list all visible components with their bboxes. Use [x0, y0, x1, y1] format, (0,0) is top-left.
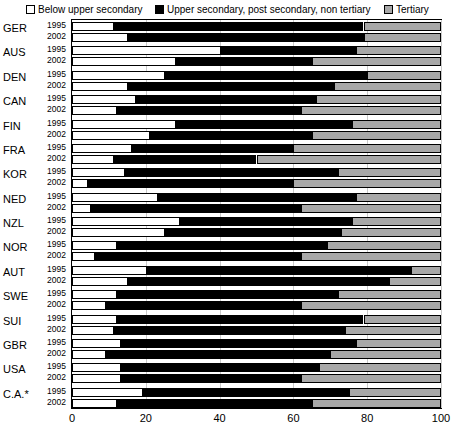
table-row — [72, 217, 441, 226]
bar-segment-below-upper-secondary — [72, 106, 116, 115]
table-row — [72, 168, 441, 177]
bar-segment-upper-secondary — [105, 350, 330, 359]
x-tick-label-0: 0 — [57, 412, 87, 424]
bar-segment-tertiary — [352, 120, 441, 129]
bar-segment-tertiary — [356, 193, 441, 202]
bar-segment-tertiary — [330, 350, 441, 359]
table-row — [72, 252, 441, 261]
country-label-aus: AUS — [3, 46, 26, 58]
bar-segment-below-upper-secondary — [72, 266, 146, 275]
legend-item-tertiary: Tertiary — [384, 2, 429, 16]
chart-legend: Below upper secondary Upper secondary, p… — [0, 2, 455, 17]
bar-segment-tertiary — [349, 388, 441, 397]
bar-segment-tertiary — [334, 82, 441, 91]
bar-segment-upper-secondary — [149, 131, 311, 140]
x-axis: 020406080100 — [0, 412, 455, 432]
legend-item-below-upper-secondary: Below upper secondary — [26, 2, 143, 16]
bar-segment-upper-secondary — [116, 315, 363, 324]
year-label-ca-2002: 2002 — [44, 398, 66, 407]
bar-segment-tertiary — [356, 339, 441, 348]
year-label-kor-1995: 1995 — [44, 167, 66, 176]
bar-segment-upper-secondary — [179, 217, 352, 226]
bar-segment-tertiary — [352, 217, 441, 226]
bar-segment-below-upper-secondary — [72, 315, 116, 324]
country-label-kor: KOR — [3, 168, 27, 180]
bar-segment-below-upper-secondary — [72, 374, 120, 383]
year-label-ned-2002: 2002 — [44, 203, 66, 212]
bar-segment-upper-secondary — [175, 57, 312, 66]
bar-segment-below-upper-secondary — [72, 388, 142, 397]
country-label-swe: SWE — [3, 290, 28, 302]
bar-segment-tertiary — [364, 315, 441, 324]
bar-segment-upper-secondary — [116, 241, 326, 250]
bar-segment-upper-secondary — [116, 290, 337, 299]
bar-segment-below-upper-secondary — [72, 193, 157, 202]
bar-segment-tertiary — [293, 144, 441, 153]
table-row — [72, 179, 441, 188]
table-row — [72, 374, 441, 383]
bar-segment-upper-secondary — [175, 120, 352, 129]
bar-segment-below-upper-secondary — [72, 95, 135, 104]
year-label-kor-2002: 2002 — [44, 178, 66, 187]
bar-segment-upper-secondary — [120, 339, 356, 348]
year-label-fra-2002: 2002 — [44, 154, 66, 163]
plot-area — [71, 19, 442, 409]
year-label-sui-2002: 2002 — [44, 325, 66, 334]
bar-segment-tertiary — [301, 374, 441, 383]
bar-segment-tertiary — [301, 106, 441, 115]
country-label-ca: C.A.* — [3, 388, 29, 400]
bar-segment-below-upper-secondary — [72, 120, 175, 129]
table-row — [72, 131, 441, 140]
year-label-aus-2002: 2002 — [44, 56, 66, 65]
bar-segment-below-upper-secondary — [72, 57, 175, 66]
bar-segment-tertiary — [257, 155, 442, 164]
bar-segment-upper-secondary — [135, 95, 316, 104]
country-label-fra: FRA — [3, 144, 25, 156]
bar-segment-tertiary — [411, 266, 441, 275]
x-tick-label-80: 80 — [352, 412, 382, 424]
bar-segment-tertiary — [338, 168, 441, 177]
bar-segment-below-upper-secondary — [72, 252, 94, 261]
year-label-nor-2002: 2002 — [44, 251, 66, 260]
bar-segment-below-upper-secondary — [72, 204, 90, 213]
year-label-aut-1995: 1995 — [44, 265, 66, 274]
x-tick-label-20: 20 — [131, 412, 161, 424]
stacked-bar-chart: Below upper secondary Upper secondary, p… — [0, 0, 455, 441]
bar-segment-tertiary — [312, 57, 441, 66]
table-row — [72, 57, 441, 66]
bar-segment-below-upper-secondary — [72, 301, 105, 310]
country-label-aut: AUT — [3, 266, 25, 278]
legend-swatch-icon-upper — [155, 5, 164, 14]
table-row — [72, 315, 441, 324]
bar-segment-tertiary — [367, 71, 441, 80]
bar-segment-tertiary — [338, 290, 441, 299]
bar-segment-below-upper-secondary — [72, 179, 87, 188]
country-label-sui: SUI — [3, 315, 21, 327]
bar-segment-upper-secondary — [87, 179, 294, 188]
year-label-fra-1995: 1995 — [44, 143, 66, 152]
table-row — [72, 326, 441, 335]
bar-segment-tertiary — [293, 179, 441, 188]
bar-segment-below-upper-secondary — [72, 326, 113, 335]
table-row — [72, 363, 441, 372]
bar-segment-upper-secondary — [220, 46, 357, 55]
year-label-den-1995: 1995 — [44, 70, 66, 79]
table-row — [72, 155, 441, 164]
table-row — [72, 33, 441, 42]
year-label-ned-1995: 1995 — [44, 192, 66, 201]
legend-swatch-icon-below — [26, 5, 35, 14]
bar-segment-below-upper-secondary — [72, 71, 164, 80]
bar-segment-upper-secondary — [116, 399, 312, 408]
bar-segment-below-upper-secondary — [72, 82, 127, 91]
table-row — [72, 22, 441, 31]
legend-label-below: Below upper secondary — [38, 4, 143, 15]
bar-segment-below-upper-secondary — [72, 363, 120, 372]
year-label-swe-2002: 2002 — [44, 300, 66, 309]
bar-segment-upper-secondary — [146, 266, 412, 275]
table-row — [72, 95, 441, 104]
bar-segment-below-upper-secondary — [72, 241, 116, 250]
bar-segment-below-upper-secondary — [72, 217, 179, 226]
bar-segment-upper-secondary — [142, 388, 349, 397]
bar-segment-tertiary — [341, 228, 441, 237]
bar-segment-tertiary — [312, 399, 441, 408]
